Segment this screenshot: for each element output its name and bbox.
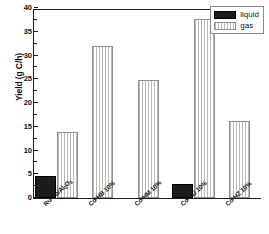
y-tick: 10 [34, 150, 38, 151]
y-tick: 40 [34, 7, 38, 8]
y-tick-minor [34, 161, 37, 162]
y-tick: 15 [34, 126, 38, 127]
y-tick: 20 [34, 102, 38, 103]
bar-gas [92, 46, 113, 198]
y-tick-label: 10 [24, 146, 32, 155]
plot-area: 0510152025303540 [33, 9, 261, 199]
y-tick: 25 [34, 78, 38, 79]
y-tick-minor [34, 19, 37, 20]
y-tick-label: 25 [24, 74, 32, 83]
legend-label-gas: gas [240, 21, 253, 30]
legend-item-liquid: liquid [214, 9, 259, 20]
legend-swatch-liquid-icon [214, 11, 236, 19]
y-tick: 30 [34, 55, 38, 56]
y-tick-label: 30 [24, 51, 32, 60]
y-tick-label: 35 [24, 27, 32, 36]
y-tick: 35 [34, 31, 38, 32]
y-tick-minor [34, 66, 37, 67]
bar-gas [194, 19, 215, 198]
y-tick-label: 20 [24, 98, 32, 107]
chart-legend: liquid gas [210, 6, 264, 34]
y-tick-minor [34, 114, 37, 115]
y-tick: 5 [34, 173, 38, 174]
legend-swatch-gas-icon [214, 22, 236, 30]
bar-chart-figure: Yield (g C/h) 0510152025303540 Ru-Co/Al2… [0, 0, 269, 234]
y-tick-minor [34, 138, 37, 139]
legend-item-gas: gas [214, 20, 259, 31]
y-tick-label: 15 [24, 122, 32, 131]
y-tick-label: 5 [28, 169, 32, 178]
y-tick-label: 0 [28, 193, 32, 202]
y-tick-minor [34, 43, 37, 44]
y-tick-minor [34, 90, 37, 91]
y-axis-title: Yield (g C/h) [14, 27, 24, 127]
y-tick-label: 40 [24, 3, 32, 12]
legend-label-liquid: liquid [240, 10, 259, 19]
